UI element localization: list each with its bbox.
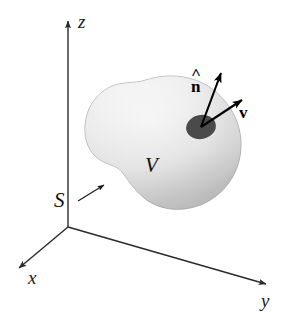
axis-y-line — [68, 227, 266, 284]
volume-blob — [85, 76, 241, 209]
surface-leader-arrow — [78, 185, 104, 201]
volume-blob-bottom-shading — [85, 76, 241, 209]
velocity-vector-label: v — [239, 104, 248, 121]
axis-label-z: z — [78, 12, 85, 31]
diagram-svg — [0, 0, 283, 321]
surface-leader — [78, 185, 104, 201]
normal-vector-label-text: n — [191, 78, 200, 95]
axis-y — [68, 227, 266, 284]
figure-canvas: z x y V S n v — [0, 0, 283, 321]
axis-label-y: y — [261, 291, 269, 310]
axis-label-x: x — [28, 268, 36, 287]
axis-x — [19, 227, 68, 268]
surface-label: S — [54, 190, 65, 211]
normal-vector-label: n — [191, 78, 200, 95]
volume-label: V — [145, 155, 158, 176]
axis-x-line — [19, 227, 68, 268]
